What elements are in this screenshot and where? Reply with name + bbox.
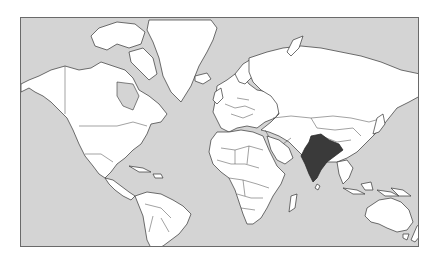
- hispaniola: [153, 174, 163, 178]
- map-title: World map with India highlighted: [0, 0, 1, 1]
- map-canvas: [21, 18, 419, 247]
- world-map: [20, 17, 419, 247]
